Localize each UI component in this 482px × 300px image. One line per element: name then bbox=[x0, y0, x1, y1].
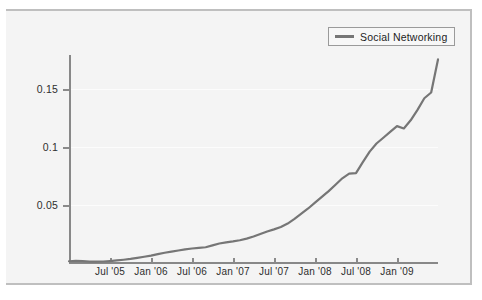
x-tick-label-jan-09: Jan '09 bbox=[380, 266, 413, 277]
x-tick-label-jan-06: Jan '06 bbox=[134, 266, 167, 277]
chart-screenshot: 0.15 0.1 0.05 Jul '05 Jan '06 Jul '06 Ja… bbox=[0, 0, 482, 300]
x-tick-label-jul-06: Jul '06 bbox=[177, 266, 207, 277]
x-tick-label-jul-05: Jul '05 bbox=[95, 266, 125, 277]
frame-rule-bottom bbox=[6, 283, 472, 285]
x-tick-label-jul-08: Jul '08 bbox=[341, 266, 371, 277]
legend-swatch-social-networking bbox=[335, 35, 354, 38]
x-axis-line bbox=[69, 262, 438, 264]
y-tick-label-0.05: 0.05 bbox=[37, 199, 58, 211]
chart-legend[interactable]: Social Networking bbox=[328, 27, 455, 46]
y-axis-line bbox=[69, 55, 71, 264]
x-tick-jan-07 bbox=[233, 258, 235, 263]
frame-rule-right bbox=[470, 9, 472, 285]
x-tick-jul-05 bbox=[110, 258, 112, 263]
x-tick-jul-08 bbox=[356, 258, 358, 263]
plot-area bbox=[70, 55, 438, 263]
x-tick-label-jan-08: Jan '08 bbox=[298, 266, 331, 277]
x-tick-jul-06 bbox=[192, 258, 194, 263]
x-tick-label-jul-07: Jul '07 bbox=[259, 266, 289, 277]
frame-rule-top bbox=[6, 9, 472, 11]
y-tick-0.10 bbox=[63, 147, 69, 149]
y-tick-label-0.15: 0.15 bbox=[37, 83, 58, 95]
x-tick-jan-08 bbox=[315, 258, 317, 263]
y-tick-0.15 bbox=[63, 89, 69, 91]
y-tick-label-0.10: 0.1 bbox=[43, 141, 58, 153]
gridline-0.10 bbox=[70, 147, 438, 148]
gridline-0.15 bbox=[70, 89, 438, 90]
x-tick-jan-06 bbox=[151, 258, 153, 263]
x-tick-label-jan-07: Jan '07 bbox=[216, 266, 249, 277]
legend-label-social-networking: Social Networking bbox=[360, 31, 447, 43]
x-tick-jan-09 bbox=[397, 258, 399, 263]
y-tick-0.05 bbox=[63, 205, 69, 207]
gridline-0.05 bbox=[70, 205, 438, 206]
x-tick-jul-07 bbox=[274, 258, 276, 263]
